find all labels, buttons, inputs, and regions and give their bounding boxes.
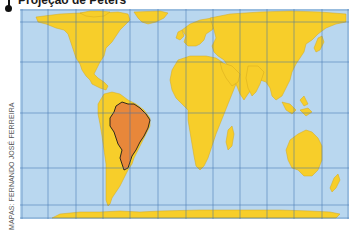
world-map [20,9,349,219]
title-bullet-icon [5,5,12,12]
credit-label-wrap: MAPAS: FERNANDO JOSÉ FERREIRA [1,92,15,232]
credit-label: MAPAS: FERNANDO JOSÉ FERREIRA [8,102,15,230]
map-title: Projeção de Peters [18,0,126,7]
